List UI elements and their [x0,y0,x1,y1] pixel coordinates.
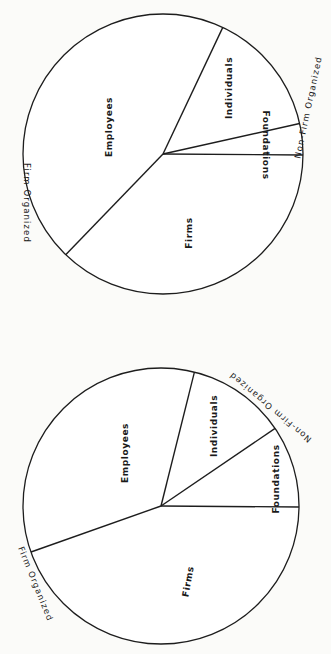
slice-label-employees: Employees [104,97,114,157]
group-label-non-firm-organized: Non-Firm Organized [292,55,323,159]
slice-label-foundations: Foundations [261,110,271,179]
pie-chart-top: Employees Firms Individuals Foundations … [0,0,331,327]
slice-label-firms: Firms [184,217,194,248]
slice-label-individuals: Individuals [224,57,234,119]
slice-label-employees: Employees [120,423,130,483]
slice-label-foundations: Foundations [271,444,281,513]
pie-chart-bottom: Employees Individuals Foundations Firms … [0,327,331,654]
group-label-firm-organized: Firm Organized [22,163,32,243]
slice-label-individuals: Individuals [209,395,219,457]
boundary-firms-foundations [163,154,303,155]
pie-chart-bottom-svg: Employees Individuals Foundations Firms … [0,327,331,654]
pie-chart-top-svg: Employees Firms Individuals Foundations … [0,0,331,327]
